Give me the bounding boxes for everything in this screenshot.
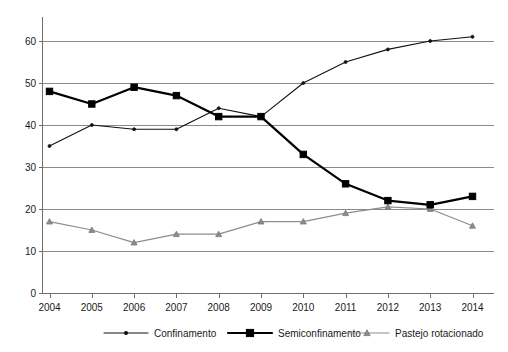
x-tick-label-2009: 2009 xyxy=(250,302,273,313)
data-point-confinamento-2014 xyxy=(471,35,474,38)
legend-marker-confinamento xyxy=(124,331,127,334)
x-tick-label-2010: 2010 xyxy=(292,302,315,313)
y-tick-label-10: 10 xyxy=(25,246,37,257)
series-line-pastejo-rotacionado xyxy=(50,207,473,243)
data-point-confinamento-2005 xyxy=(90,124,93,127)
x-tick-label-2005: 2005 xyxy=(81,302,104,313)
y-tick-label-30: 30 xyxy=(25,162,37,173)
chart-canvas: 0102030405060 20042005200620072008200920… xyxy=(0,0,508,352)
y-axis-labels-group: 0102030405060 xyxy=(25,36,43,299)
data-point-confinamento-2013 xyxy=(429,40,432,43)
data-point-semiconfinamento-2010 xyxy=(300,151,306,157)
chart-legend: ConfinamentoSemiconfinamentoPastejo rota… xyxy=(104,328,484,339)
x-tick-label-2007: 2007 xyxy=(165,302,188,313)
data-point-semiconfinamento-2013 xyxy=(427,202,433,208)
x-tick-label-2008: 2008 xyxy=(208,302,231,313)
data-point-semiconfinamento-2012 xyxy=(385,197,391,203)
data-point-semiconfinamento-2005 xyxy=(89,101,95,107)
line-chart-figure: 0102030405060 20042005200620072008200920… xyxy=(0,0,508,352)
data-point-confinamento-2007 xyxy=(175,128,178,131)
data-point-semiconfinamento-2006 xyxy=(131,84,137,90)
legend-label-confinamento: Confinamento xyxy=(154,328,217,339)
series-confinamento xyxy=(48,35,474,147)
x-tick-label-2013: 2013 xyxy=(419,302,442,313)
gridlines-group xyxy=(43,42,495,252)
data-point-confinamento-2008 xyxy=(217,107,220,110)
data-point-semiconfinamento-2008 xyxy=(216,113,222,119)
legend-marker-semiconfinamento xyxy=(246,329,253,336)
x-tick-label-2006: 2006 xyxy=(123,302,146,313)
x-tick-label-2012: 2012 xyxy=(377,302,400,313)
x-axis-ticks-group xyxy=(51,294,474,299)
data-point-semiconfinamento-2009 xyxy=(258,113,264,119)
series-semiconfinamento xyxy=(46,84,475,208)
x-tick-label-2011: 2011 xyxy=(335,302,357,313)
data-point-confinamento-2012 xyxy=(386,48,389,51)
y-tick-label-50: 50 xyxy=(25,78,37,89)
data-point-semiconfinamento-2014 xyxy=(469,193,475,199)
x-tick-label-2014: 2014 xyxy=(461,302,484,313)
series-line-confinamento xyxy=(50,37,473,146)
data-point-confinamento-2011 xyxy=(344,61,347,64)
data-point-semiconfinamento-2011 xyxy=(342,181,348,187)
x-axis-labels-group: 2004200520062007200820092010201120122013… xyxy=(38,302,484,313)
data-point-pastejo-rotacionado-2004 xyxy=(47,219,53,224)
y-tick-label-60: 60 xyxy=(25,36,37,47)
data-point-confinamento-2004 xyxy=(48,145,51,148)
data-point-confinamento-2006 xyxy=(133,128,136,131)
legend-label-pastejo-rotacionado: Pastejo rotacionado xyxy=(395,328,484,339)
y-tick-label-20: 20 xyxy=(25,204,37,215)
x-tick-label-2004: 2004 xyxy=(38,302,61,313)
y-tick-label-40: 40 xyxy=(25,120,37,131)
data-point-confinamento-2010 xyxy=(302,82,305,85)
y-tick-label-0: 0 xyxy=(30,288,36,299)
data-point-semiconfinamento-2007 xyxy=(173,92,179,98)
series-line-semiconfinamento xyxy=(50,87,473,205)
data-point-semiconfinamento-2004 xyxy=(46,88,52,94)
series-pastejo-rotacionado xyxy=(47,204,476,245)
